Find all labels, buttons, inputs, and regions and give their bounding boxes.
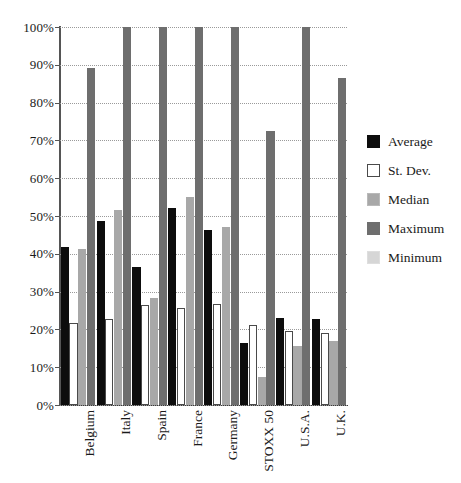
y-axis-tick-label: 10%	[30, 361, 54, 374]
y-axis-tick-label: 30%	[30, 285, 54, 298]
bar-maximum	[266, 131, 274, 405]
bar-maximum	[123, 27, 131, 405]
y-axis-tick-label: 60%	[30, 172, 54, 185]
bar-group	[97, 27, 132, 405]
bar-group	[312, 27, 347, 405]
y-axis-tick-labels: 100%90%80%70%60%50%40%30%20%10%0%	[0, 27, 54, 405]
legend-item[interactable]: St. Dev.	[367, 156, 459, 185]
y-axis-tick-label: 80%	[30, 96, 54, 109]
bar-median	[258, 377, 266, 405]
bar-median	[186, 197, 194, 405]
x-axis-label: Belgium	[83, 410, 97, 457]
legend-swatch-maximum-icon	[367, 222, 380, 235]
bar-average	[168, 208, 176, 405]
y-axis-tick-label: 40%	[30, 247, 54, 260]
bar-group	[168, 27, 203, 405]
bar-group	[276, 27, 311, 405]
y-axis-tick-label: 90%	[30, 58, 54, 71]
bar-maximum	[159, 27, 167, 405]
plot-area	[60, 27, 347, 405]
legend-swatch-average-icon	[367, 135, 380, 148]
bar-median	[150, 298, 158, 405]
bar-stdev	[213, 304, 221, 405]
bar-group	[204, 27, 239, 405]
bar-maximum	[338, 78, 346, 405]
bar-stdev	[285, 331, 293, 405]
bar-average	[312, 319, 320, 405]
bar-group	[240, 27, 275, 405]
bar-stdev	[69, 323, 77, 405]
legend-item-label: St. Dev.	[388, 164, 431, 178]
chart-legend: AverageSt. Dev.MedianMaximumMinimum	[367, 127, 459, 272]
legend-item-label: Minimum	[388, 251, 442, 265]
bar-average	[204, 230, 212, 405]
y-axis-tick-label: 20%	[30, 323, 54, 336]
bar-stdev	[321, 333, 329, 405]
legend-swatch-st-dev-icon	[367, 164, 380, 177]
bar-chart: 100%90%80%70%60%50%40%30%20%10%0% Belgiu…	[0, 0, 461, 483]
bar-median	[222, 227, 230, 405]
y-axis-tick-label: 50%	[30, 210, 54, 223]
bar-stdev	[177, 308, 185, 405]
bar-average	[240, 343, 248, 405]
bar-median	[329, 341, 337, 405]
legend-item[interactable]: Minimum	[367, 243, 459, 272]
legend-swatch-minimum-icon	[367, 251, 380, 264]
bar-group	[132, 27, 167, 405]
bar-median	[293, 346, 301, 405]
legend-item[interactable]: Average	[367, 127, 459, 156]
legend-item-label: Average	[388, 135, 433, 149]
y-axis-tick-label: 100%	[23, 21, 54, 34]
x-axis-label: Italy	[119, 410, 133, 435]
legend-item[interactable]: Median	[367, 185, 459, 214]
legend-item-label: Maximum	[388, 222, 444, 236]
y-axis-tick-label: 0%	[36, 399, 54, 412]
bar-stdev	[249, 325, 257, 406]
bar-average	[61, 247, 69, 405]
bar-group	[61, 27, 96, 405]
x-axis-label: STOXX 50	[262, 410, 276, 472]
x-axis-label: U.K.	[334, 410, 348, 436]
y-axis-tick-label: 70%	[30, 134, 54, 147]
bar-maximum	[195, 27, 203, 405]
legend-item-label: Median	[388, 193, 429, 207]
bar-median	[78, 249, 86, 405]
bar-maximum	[231, 27, 239, 405]
x-axis-label: U.S.A.	[298, 410, 312, 447]
legend-swatch-median-icon	[367, 193, 380, 206]
x-axis-label: France	[191, 410, 205, 447]
bar-maximum	[302, 27, 310, 405]
bar-stdev	[105, 319, 113, 405]
x-axis-label: Germany	[226, 410, 240, 460]
bar-stdev	[141, 305, 149, 405]
bar-average	[97, 221, 105, 405]
gridline	[60, 405, 347, 406]
x-axis-label: Spain	[155, 410, 169, 441]
bar-maximum	[87, 68, 95, 405]
bar-median	[114, 210, 122, 405]
bar-average	[132, 267, 140, 405]
bar-average	[276, 318, 284, 405]
legend-item[interactable]: Maximum	[367, 214, 459, 243]
